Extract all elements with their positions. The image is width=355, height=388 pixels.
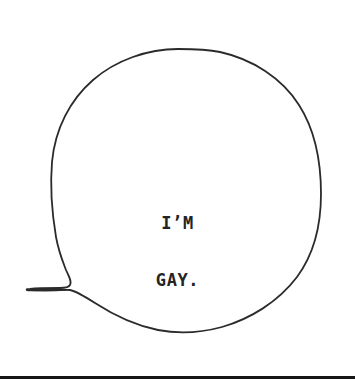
balloon-text: I’M GAY. [0, 176, 355, 328]
balloon-text-line-2: GAY. [0, 271, 355, 290]
balloon-text-line-1: I’M [0, 214, 355, 233]
comic-panel: I’M GAY. [0, 0, 355, 388]
